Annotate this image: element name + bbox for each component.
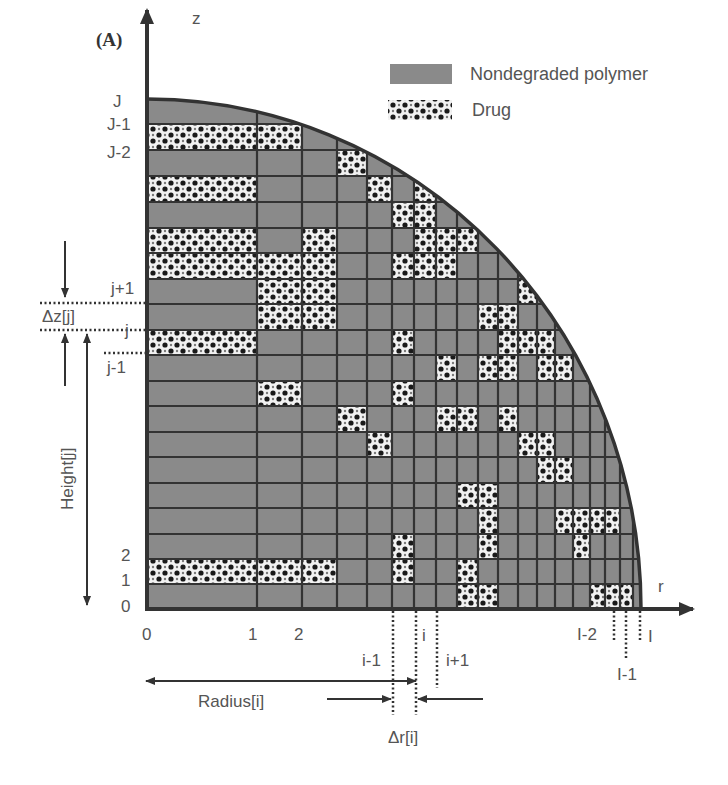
drug-cell — [302, 559, 337, 584]
z-tick-J-2: J-2 — [107, 143, 131, 162]
r-tick-0: 0 — [142, 625, 151, 644]
drug-cell — [436, 228, 457, 253]
drug-cell — [436, 253, 457, 279]
drug-cell — [302, 228, 337, 253]
drug-cell — [436, 406, 457, 432]
z-tick-2: 2 — [121, 546, 130, 565]
panel-label: (A) — [96, 29, 122, 51]
drug-cell — [590, 508, 605, 534]
drug-cell — [537, 355, 555, 381]
drug-cell — [457, 559, 478, 584]
drug-cell — [498, 355, 518, 381]
drug-cell — [590, 584, 605, 609]
drug-cell — [537, 457, 555, 483]
drug-cell — [537, 330, 555, 355]
z-tick-1: 1 — [121, 571, 130, 590]
drug-cell — [414, 253, 436, 279]
drug-cell — [392, 202, 414, 228]
drug-cell — [555, 508, 573, 534]
drug-cell — [573, 508, 590, 534]
z-tick-0: 0 — [121, 597, 130, 616]
drug-cell — [147, 559, 257, 584]
drug-cell — [147, 228, 257, 253]
r-tick-2: 2 — [294, 625, 303, 644]
drug-cell — [436, 355, 457, 381]
drug-cell — [478, 584, 498, 609]
drug-cell — [147, 330, 257, 355]
drug-cell — [367, 176, 392, 202]
drug-cell — [457, 406, 478, 432]
drug-cell — [257, 559, 302, 584]
drug-cell — [392, 534, 414, 559]
r-tick-1: 1 — [248, 625, 257, 644]
drug-cell — [337, 406, 367, 432]
legend-swatch-polymer — [390, 64, 452, 84]
r-axis-label: r — [658, 577, 664, 596]
drug-cell — [605, 508, 620, 534]
drug-cell — [147, 124, 257, 150]
drug-cell — [478, 483, 498, 508]
label-delta-r: Δr[i] — [388, 728, 418, 747]
legend-label-polymer: Nondegraded polymer — [470, 64, 648, 84]
label-j-minus-1: j-1 — [106, 358, 126, 377]
label-height: Height[j] — [58, 448, 77, 510]
drug-cell — [555, 355, 573, 381]
drug-cell — [257, 124, 302, 150]
polymer-drug-grid-diagram: (A) z r Nondegraded polymer Drug J J-1 J… — [0, 0, 728, 785]
z-tick-J-1: J-1 — [107, 115, 131, 134]
drug-cell — [257, 304, 302, 330]
drug-cell — [498, 330, 518, 355]
drug-cell — [337, 150, 367, 176]
drug-cell — [147, 253, 257, 279]
label-j: j — [124, 321, 129, 340]
label-I-minus-1: I-1 — [617, 665, 637, 684]
label-i: i — [422, 626, 426, 645]
drug-cell — [392, 381, 414, 406]
label-i-minus-1: i-1 — [362, 651, 381, 670]
drug-cell — [555, 457, 573, 483]
drug-cell — [414, 228, 436, 253]
drug-cell — [478, 508, 498, 534]
drug-cell — [478, 304, 498, 330]
drug-cell — [147, 176, 257, 202]
drug-cell — [457, 228, 478, 253]
drug-cell — [537, 432, 555, 457]
drug-cell — [257, 381, 302, 406]
drug-cell — [257, 253, 302, 279]
drug-cell — [590, 355, 605, 381]
z-tick-J: J — [113, 92, 122, 111]
drug-cell — [457, 584, 478, 609]
drug-cell — [302, 279, 337, 304]
I-annotations — [614, 611, 640, 658]
drug-cell — [392, 253, 414, 279]
label-i-plus-1: i+1 — [446, 651, 469, 670]
label-j-plus-1: j+1 — [110, 279, 134, 298]
drug-cell — [392, 330, 414, 355]
drug-cell — [573, 534, 590, 559]
drug-cell — [367, 432, 392, 457]
drug-cell — [392, 559, 414, 584]
drug-cell — [518, 330, 537, 355]
drug-cell — [414, 202, 436, 228]
drug-cell — [478, 355, 498, 381]
drug-cell — [518, 432, 537, 457]
grid-body — [147, 99, 641, 609]
drug-cell — [257, 279, 302, 304]
drug-cell — [302, 253, 337, 279]
legend: Nondegraded polymer Drug — [388, 64, 648, 120]
z-axis-label: z — [192, 9, 201, 28]
drug-cell — [302, 304, 337, 330]
legend-label-drug: Drug — [472, 100, 511, 120]
label-delta-z: Δz[j] — [42, 307, 75, 326]
label-I-minus-2: I-2 — [577, 625, 597, 644]
drug-cell — [620, 584, 633, 609]
drug-cell — [457, 483, 478, 508]
label-I: I — [648, 627, 653, 646]
drug-cell — [498, 304, 518, 330]
label-radius: Radius[i] — [198, 692, 264, 711]
drug-cell — [478, 534, 498, 559]
drug-cell — [498, 406, 518, 432]
legend-swatch-drug — [388, 100, 452, 120]
drug-cell — [605, 584, 620, 609]
